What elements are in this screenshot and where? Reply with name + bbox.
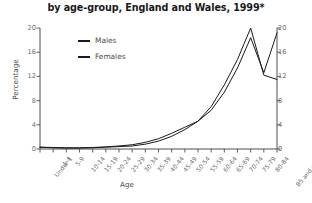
series-line-males bbox=[40, 28, 277, 148]
data-series-group bbox=[40, 28, 277, 148]
axis-lines bbox=[37, 28, 281, 153]
plot-area bbox=[0, 0, 312, 203]
chart-figure: by age-group, England and Wales, 1999* P… bbox=[0, 0, 312, 203]
